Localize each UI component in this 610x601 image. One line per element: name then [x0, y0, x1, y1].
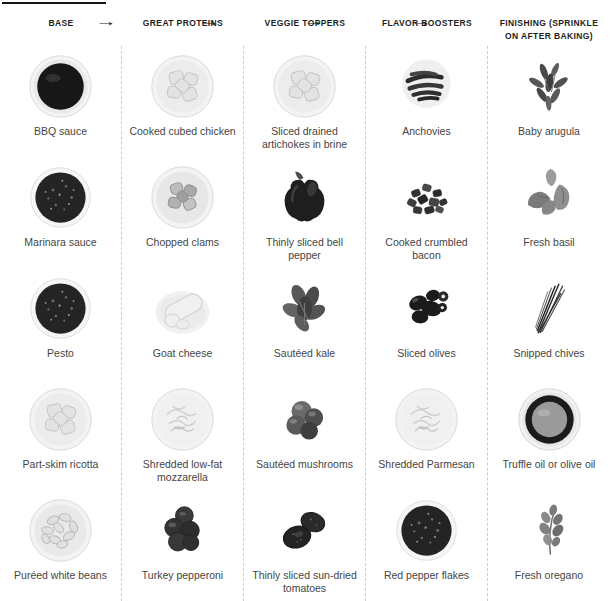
column-header-finishing-sprinkle-on-after-baking: FINISHING (SPRINKLE ON AFTER BAKING) — [488, 17, 610, 46]
light-chunks-bowl-icon — [271, 50, 338, 123]
bacon-crumbles-icon — [393, 161, 460, 234]
item-label: Red pepper flakes — [379, 569, 474, 582]
flow-arrow-icon: → — [198, 14, 220, 28]
item-label: Baby arugula — [513, 125, 585, 138]
cheese-log-icon — [149, 272, 216, 345]
shreds-bowl-icon — [149, 383, 216, 456]
bell-pepper-icon — [271, 161, 338, 234]
basil-leaves-icon — [516, 161, 583, 234]
item-label: Truffle oil or olive oil — [498, 458, 601, 471]
item-label: Marinara sauce — [19, 236, 101, 249]
mushrooms-icon — [271, 383, 338, 456]
item-label: Goat cheese — [148, 347, 218, 360]
column-finishing-sprinkle-on-after-baking: Baby arugulaFresh basilSnipped chivesTru… — [488, 46, 610, 601]
oregano-sprig-icon — [516, 494, 583, 567]
gray-chunks-bowl-icon — [149, 161, 216, 234]
speckled-sauce-bowl-icon — [393, 494, 460, 567]
item-label: Snipped chives — [508, 347, 589, 360]
item-anchovies: Anchovies — [366, 46, 487, 157]
item-label: Sautéed kale — [269, 347, 340, 360]
item-sliced-olives: Sliced olives — [366, 268, 487, 379]
item-red-pepper-flakes: Red pepper flakes — [366, 490, 487, 601]
item-truffle-oil-or-olive-oil: Truffle oil or olive oil — [488, 379, 610, 490]
item-shredded-low-fat-mozzarella: Shredded low-fat mozzarella — [122, 379, 243, 490]
item-goat-cheese: Goat cheese — [122, 268, 243, 379]
oil-bowl-icon — [516, 383, 583, 456]
light-chunks-bowl-icon — [27, 383, 94, 456]
shreds-bowl-icon — [393, 383, 460, 456]
speckled-sauce-bowl-icon — [27, 161, 94, 234]
column-veggie-toppers: Sliced drained artichokes in brineThinly… — [244, 46, 366, 601]
column-flavor-boosters: AnchoviesCooked crumbled baconSliced oli… — [366, 46, 488, 601]
light-chunks-bowl-icon — [149, 50, 216, 123]
column-base: BBQ sauceMarinara saucePestoPart-skim ri… — [0, 46, 122, 601]
item-label: Puréed white beans — [9, 569, 112, 582]
flow-arrow-icon: → — [410, 14, 432, 28]
item-label: Chopped clams — [141, 236, 224, 249]
item-label: Sliced olives — [392, 347, 460, 360]
flow-arrow-icon: → — [95, 14, 117, 28]
dark-sauce-bowl-icon — [27, 50, 94, 123]
item-part-skim-ricotta: Part-skim ricotta — [0, 379, 121, 490]
item-label: Shredded Parmesan — [373, 458, 479, 471]
dried-tomatoes-icon — [271, 494, 338, 567]
item-label: BBQ sauce — [29, 125, 92, 138]
item-label: Thinly sliced sun-dried tomatoes — [244, 569, 365, 595]
item-sliced-drained-artichokes-in-brine: Sliced drained artichokes in brine — [244, 46, 365, 157]
item-sauteed-kale: Sautéed kale — [244, 268, 365, 379]
item-cooked-cubed-chicken: Cooked cubed chicken — [122, 46, 243, 157]
olives-icon — [393, 272, 460, 345]
column-header-great-proteins: GREAT PROTEINS — [122, 17, 244, 46]
item-cooked-crumbled-bacon: Cooked crumbled bacon — [366, 157, 487, 268]
item-fresh-oregano: Fresh oregano — [488, 490, 610, 601]
item-marinara-sauce: Marinara sauce — [0, 157, 121, 268]
item-bbq-sauce: BBQ sauce — [0, 46, 121, 157]
item-thinly-sliced-sun-dried-tomatoes: Thinly sliced sun-dried tomatoes — [244, 490, 365, 601]
item-thinly-sliced-bell-pepper: Thinly sliced bell pepper — [244, 157, 365, 268]
pepperoni-slices-icon — [149, 494, 216, 567]
item-label: Sautéed mushrooms — [251, 458, 358, 471]
beans-bowl-icon — [27, 494, 94, 567]
item-label: Cooked cubed chicken — [124, 125, 240, 138]
item-label: Turkey pepperoni — [137, 569, 228, 582]
arugula-leaves-icon — [516, 50, 583, 123]
item-label: Sliced drained artichokes in brine — [244, 125, 365, 151]
item-label: Thinly sliced bell pepper — [244, 236, 365, 262]
item-label: Fresh oregano — [510, 569, 588, 582]
flow-arrow-icon: → — [303, 14, 325, 28]
item-sauteed-mushrooms: Sautéed mushrooms — [244, 379, 365, 490]
topping-grid: BBQ sauceMarinara saucePestoPart-skim ri… — [0, 46, 610, 601]
item-pureed-white-beans: Puréed white beans — [0, 490, 121, 601]
item-fresh-basil: Fresh basil — [488, 157, 610, 268]
item-chopped-clams: Chopped clams — [122, 157, 243, 268]
item-label: Cooked crumbled bacon — [366, 236, 487, 262]
item-shredded-parmesan: Shredded Parmesan — [366, 379, 487, 490]
header-row: BASEGREAT PROTEINSVEGGIE TOPPERSFLAVOR B… — [0, 0, 610, 46]
item-label: Pesto — [42, 347, 79, 360]
item-label: Part-skim ricotta — [18, 458, 104, 471]
speckled-sauce-bowl-icon — [27, 272, 94, 345]
column-great-proteins: Cooked cubed chickenChopped clamsGoat ch… — [122, 46, 244, 601]
item-snipped-chives: Snipped chives — [488, 268, 610, 379]
item-baby-arugula: Baby arugula — [488, 46, 610, 157]
item-label: Shredded low-fat mozzarella — [122, 458, 243, 484]
chives-icon — [516, 272, 583, 345]
kale-leaves-icon — [271, 272, 338, 345]
item-turkey-pepperoni: Turkey pepperoni — [122, 490, 243, 601]
item-label: Fresh basil — [518, 236, 579, 249]
anchovies-icon — [393, 50, 460, 123]
item-pesto: Pesto — [0, 268, 121, 379]
item-label: Anchovies — [397, 125, 455, 138]
